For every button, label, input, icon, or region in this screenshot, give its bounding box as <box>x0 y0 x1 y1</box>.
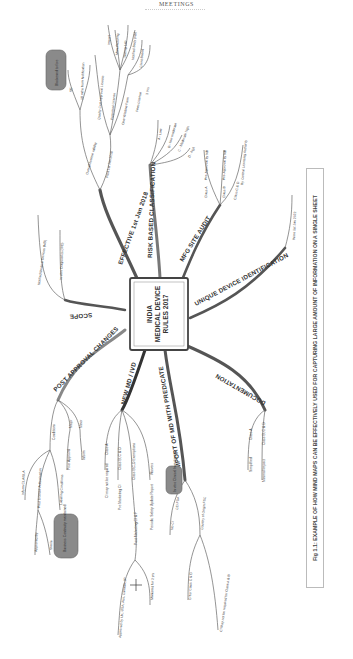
doc-item-bcd: Class B, C & D <box>262 422 266 445</box>
figure-caption: Fig 1.1: EXAMPLE OF HOW MIND MAPS CAN BE… <box>312 195 318 561</box>
import-sub-cd: CI for Class C & D <box>188 572 193 600</box>
center-line-1: INDIA <box>146 305 153 323</box>
new-item-bcd: Class B, C & D <box>118 447 122 470</box>
import-sub-ab: CI May not be required for Class A & B <box>219 573 231 632</box>
new-detail-ci: CI may not be required <box>105 463 109 498</box>
udi-item: Wore 1st Jan 2022 <box>292 211 297 240</box>
leaf-import: Import <box>107 35 111 45</box>
doc-detail-bcd: Minimal Impact <box>262 459 266 482</box>
new-item-waivers: Waivers <box>150 463 154 475</box>
branch-post-approval <box>58 330 125 400</box>
new-item-a: Class A <box>105 443 109 455</box>
post-detail-prior: Prior Approval <box>67 448 71 470</box>
branch-label-post-approval: POST APPROVAL CHANGES <box>52 325 120 393</box>
branch-scope <box>65 300 125 310</box>
mind-map-figure: INDIA MEDICAL DEVICE RULES 2017 EFFECTIV… <box>0 0 353 659</box>
branch-label-effective: EFFECTIVE 1st Jan 2018 <box>116 190 149 265</box>
svg-text:Business Continuity maintained: Business Continuity maintained <box>63 505 67 552</box>
post-sterile: Sterile <box>49 540 53 550</box>
risk-item-b: B - low moderate <box>167 122 178 148</box>
new-approved: Approved by UK, USA, Aus, Canada, JP <box>118 577 127 639</box>
post-detail-inform: Inform <box>82 450 86 460</box>
risk-item-c: C - Moderate high <box>177 125 190 152</box>
leaf-testing-lab: Testing Lab <box>123 40 128 58</box>
new-item-exemptions: Class B,C,D Exemptions <box>132 443 136 480</box>
leaf-post-1st-jan: Post 1st Jan 2018 <box>105 151 114 179</box>
center-line-3: RULES 2017 <box>162 294 169 333</box>
new-detail-pre: Pre Marketing CI <box>118 485 122 510</box>
post-approved-by: Approved By <box>34 532 39 552</box>
audit-detail-cd: By Central Licensing Authority <box>240 139 248 185</box>
post-conditions: Conditions <box>52 424 56 440</box>
branch-effective <box>100 190 140 285</box>
post-license-auth: Post License Authorisation <box>37 468 42 508</box>
risk-item-d: D - high <box>187 146 196 159</box>
import-item-noci: No CI <box>170 521 175 530</box>
branch-label-udi: UNIQUE DEVICE IDENTIFICATION <box>193 251 289 307</box>
center-node: INDIA MEDICAL DEVICE RULES 2017 <box>130 278 188 350</box>
svg-text:Blackened to fore: Blackened to fore <box>55 59 59 86</box>
leaf-client-based: Client Based <box>139 48 145 68</box>
import-item-cefda: CE/ FDA <box>175 496 180 510</box>
audit-detail-b: Pre-Approval by NB <box>222 149 227 180</box>
post-item-minor: Minor <box>79 419 83 428</box>
note-blob-effective: Blackened to fore <box>46 50 66 90</box>
branch-label-scope: SCOPE <box>69 312 92 321</box>
audit-item-a: Class A <box>204 186 208 198</box>
post-labelling: Labelling Conditions <box>59 474 64 505</box>
center-line-2: MEDICAL DEVICE <box>154 285 161 342</box>
doc-item-a: Class A <box>249 428 253 440</box>
doc-detail-a: Simplified <box>249 457 253 472</box>
leaf-manufacturing: Manufacturing <box>115 33 120 55</box>
figure-caption-box: Fig 1.1: EXAMPLE OF HOW MIND MAPS CAN BE… <box>306 168 324 588</box>
branch-label-audit: MFG SITE AUDIT <box>178 214 212 262</box>
leaf-notified-body: Notified Body (NB) <box>131 32 137 60</box>
leaf-fees-license: Fees License <box>135 92 142 113</box>
new-marketed: Marketed for 2 yrs <box>150 572 155 600</box>
crosshair-cursor-icon <box>130 579 142 591</box>
leaf-3yrs: 3 Yrs <box>145 86 150 95</box>
post-item-major: Major <box>69 419 73 428</box>
note-blob-post-approval: Business Continuity maintained <box>54 505 78 558</box>
import-item-fsc: Country of Origin FSC <box>200 496 207 530</box>
svg-text:In vitro Clinical Investigatio: In vitro Clinical Investigation <box>173 450 177 492</box>
new-detail-post: Post Marketing CI & F <box>134 512 138 545</box>
audit-item-b: Class B <box>222 185 226 198</box>
risk-item-a: A - Low <box>157 128 163 140</box>
new-detail-psur: Periodic Safety Update Report <box>150 484 154 530</box>
scope-item-ivd: In vitro Diagnostics (IVD) <box>59 242 64 280</box>
leaf-se: SE <box>69 87 73 92</box>
